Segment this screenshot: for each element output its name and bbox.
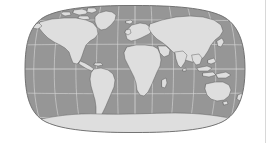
panel-divider	[265, 0, 266, 143]
map-body	[20, 0, 252, 143]
world-map-svg	[0, 0, 258, 143]
ocean-shading	[20, 0, 252, 143]
screenshot-root: World Map Robinson	[0, 0, 272, 143]
world-map-figure	[0, 0, 258, 143]
